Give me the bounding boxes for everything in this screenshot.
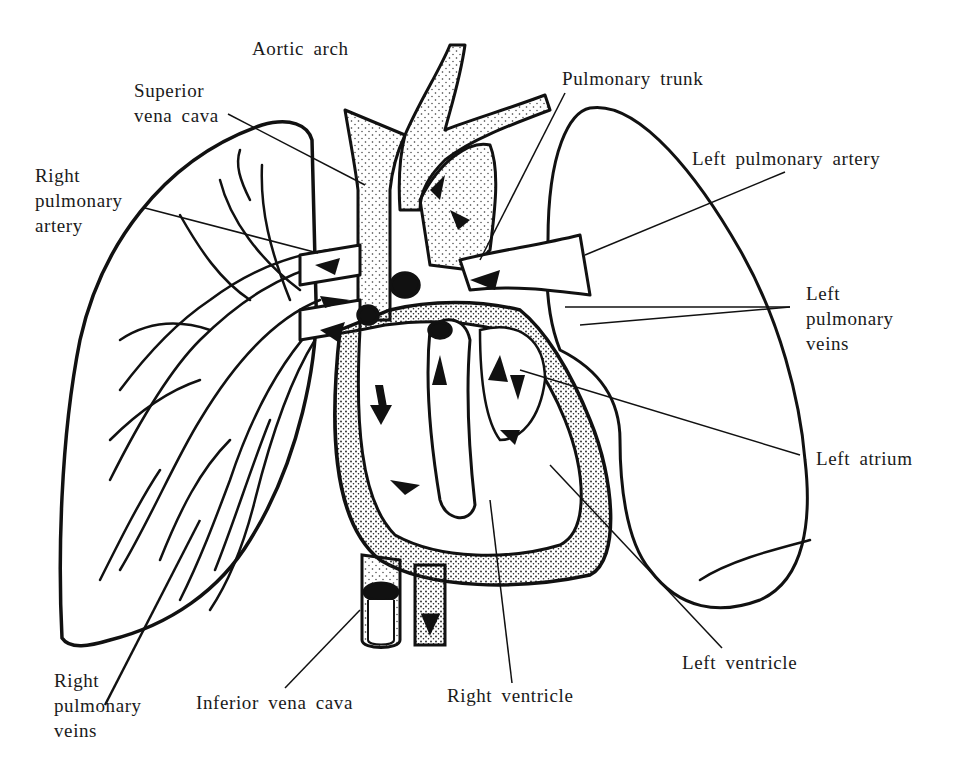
label-left-pulmonary-veins: Left pulmonary veins: [806, 281, 894, 356]
leader-left-pulmonary-artery: [585, 172, 785, 255]
label-left-pulmonary-artery: Left pulmonary artery: [692, 146, 880, 171]
label-aortic-arch: Aortic arch: [252, 36, 349, 61]
label-line: pulmonary: [35, 188, 123, 213]
label-left-atrium: Left atrium: [816, 446, 913, 471]
label-line: Pulmonary trunk: [562, 66, 703, 91]
label-inferior-vena-cava: Inferior vena cava: [196, 690, 353, 715]
label-line: Left pulmonary artery: [692, 146, 880, 171]
label-line: Right ventricle: [447, 683, 573, 708]
label-line: Aortic arch: [252, 36, 349, 61]
label-line: pulmonary: [54, 693, 142, 718]
label-left-ventricle: Left ventricle: [682, 650, 797, 675]
label-line: Right: [54, 668, 142, 693]
label-line: Left: [806, 281, 894, 306]
label-pulmonary-trunk: Pulmonary trunk: [562, 66, 703, 91]
label-line: Left ventricle: [682, 650, 797, 675]
label-line: Inferior vena cava: [196, 690, 353, 715]
label-right-ventricle: Right ventricle: [447, 683, 573, 708]
leader-right-pulmonary-artery: [145, 208, 318, 253]
label-line: vena cava: [134, 103, 219, 128]
label-line: veins: [54, 718, 142, 743]
label-line: Left atrium: [816, 446, 913, 471]
label-line: veins: [806, 331, 894, 356]
label-right-pulmonary-veins: Right pulmonary veins: [54, 668, 142, 743]
label-line: Superior: [134, 78, 219, 103]
label-line: artery: [35, 213, 123, 238]
label-line: Right: [35, 163, 123, 188]
leader-inferior-vena-cava: [285, 610, 360, 688]
label-superior-vena-cava: Superior vena cava: [134, 78, 219, 128]
heart-lung-diagram: Aortic arch Superior vena cava Right pul…: [0, 0, 968, 772]
label-line: pulmonary: [806, 306, 894, 331]
label-right-pulmonary-artery: Right pulmonary artery: [35, 163, 123, 238]
leader-left-pulmonary-veins-2: [580, 307, 790, 325]
heart: [335, 273, 611, 585]
